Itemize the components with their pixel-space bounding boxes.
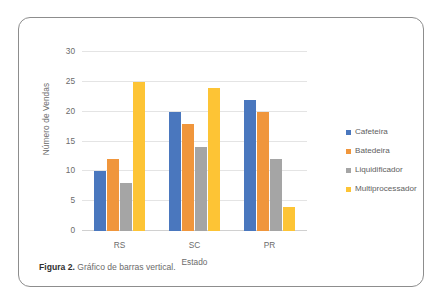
bar-groups: RSSCPR (82, 52, 307, 231)
legend-item[interactable]: Multiprocessador (346, 185, 417, 193)
y-axis-tick-label: 15 (66, 136, 75, 146)
legend-label: Multiprocessador (355, 185, 417, 193)
y-axis-tick-label: 10 (66, 165, 75, 175)
bar-chart: Número de Vendas 051015202530 RSSCPR Est… (19, 18, 425, 250)
figure-caption-text: Gráfico de barras vertical. (77, 262, 175, 272)
legend-item[interactable]: Cafeteira (346, 128, 417, 136)
bar-group: SC (164, 52, 226, 231)
y-axis-tick-label: 25 (66, 76, 75, 86)
bar-group: RS (89, 52, 151, 231)
bar (270, 159, 282, 231)
bar (169, 112, 181, 231)
y-axis-tick-label: 20 (66, 106, 75, 116)
bar-group: PR (239, 52, 301, 231)
legend-swatch-icon (346, 168, 351, 173)
x-axis-tick-label: RS (89, 240, 151, 250)
plot-area: 051015202530 RSSCPR (82, 52, 307, 231)
legend-swatch-icon (346, 187, 351, 192)
legend-item[interactable]: Batedeira (346, 147, 417, 155)
bar (195, 147, 207, 231)
chart-legend: CafeteiraBatedeiraLiquidificadorMultipro… (346, 128, 417, 193)
legend-label: Liquidificador (355, 166, 403, 174)
bar (94, 171, 106, 231)
bar (182, 124, 194, 231)
bar (257, 112, 269, 231)
bar (133, 82, 145, 231)
bar (208, 88, 220, 231)
y-axis-tick-label: 5 (70, 195, 75, 205)
screenshot-root: Número de Vendas 051015202530 RSSCPR Est… (0, 0, 444, 301)
x-axis-tick-label: PR (239, 240, 301, 250)
figure-caption-label: Figura 2. (39, 262, 75, 272)
y-axis-title: Número de Vendas (41, 59, 51, 179)
bar (120, 183, 132, 231)
y-axis-tick-label: 30 (66, 46, 75, 56)
bar (283, 207, 295, 231)
y-axis-tick-label: 0 (70, 225, 75, 235)
legend-swatch-icon (346, 130, 351, 135)
legend-swatch-icon (346, 149, 351, 154)
bar (107, 159, 119, 231)
legend-item[interactable]: Liquidificador (346, 166, 417, 174)
figure-caption: Figura 2. Gráfico de barras vertical. (39, 262, 409, 272)
x-axis-tick-label: SC (164, 240, 226, 250)
legend-label: Cafeteira (355, 128, 388, 136)
legend-label: Batedeira (355, 147, 390, 155)
figure-card: Número de Vendas 051015202530 RSSCPR Est… (18, 17, 424, 287)
bar (244, 100, 256, 231)
